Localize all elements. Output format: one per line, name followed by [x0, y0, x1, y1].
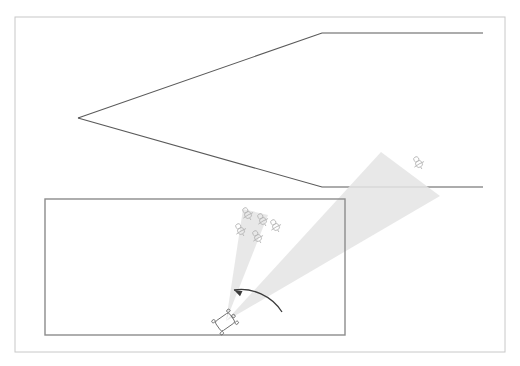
diagram-svg — [0, 0, 520, 366]
diagram-canvas — [0, 0, 520, 366]
